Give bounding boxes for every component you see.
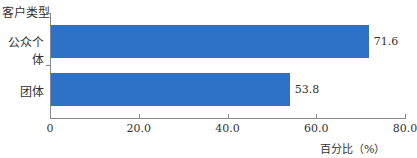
x-tick-label: 80.0 xyxy=(393,122,417,135)
x-tick xyxy=(228,114,229,118)
x-tick xyxy=(50,114,51,118)
x-tick xyxy=(405,114,406,118)
x-tick xyxy=(316,114,317,118)
x-tick xyxy=(139,114,140,118)
x-axis-title: 百分比（%） xyxy=(320,140,385,156)
category-label: 公众个体 xyxy=(0,33,44,67)
x-tick-label: 60.0 xyxy=(304,122,329,135)
y-axis-title: 客户类型 xyxy=(2,3,50,20)
value-label: 53.8 xyxy=(295,83,320,96)
y-tick xyxy=(46,65,50,66)
category-label: 团体 xyxy=(0,82,44,99)
value-label: 71.6 xyxy=(374,35,399,48)
bar-group xyxy=(51,73,290,106)
x-tick-label: 40.0 xyxy=(215,122,240,135)
x-tick-label: 20.0 xyxy=(127,122,152,135)
x-axis-line xyxy=(50,118,406,119)
x-tick-label: 0 xyxy=(47,122,54,135)
y-tick xyxy=(46,13,50,14)
bar-public-individual xyxy=(51,25,369,58)
